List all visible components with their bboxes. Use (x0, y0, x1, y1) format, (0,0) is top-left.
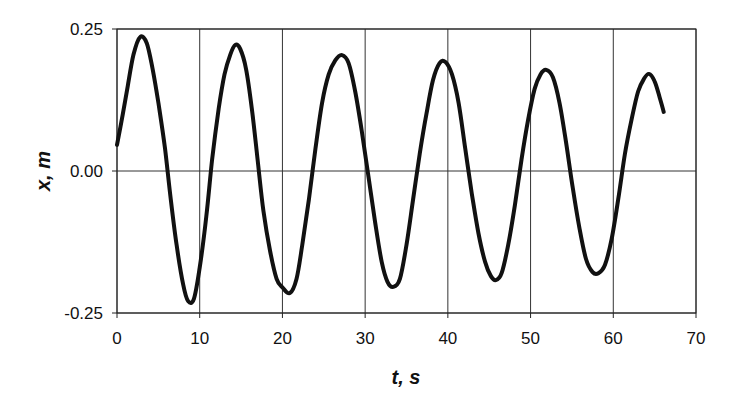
y-tick-label: 0.00 (70, 162, 103, 181)
x-tick-label: 30 (356, 329, 375, 348)
y-tick-label: -0.25 (64, 304, 103, 323)
x-axis-title: t, s (392, 366, 421, 388)
x-axis: 010203040506070 (112, 313, 705, 348)
y-axis-title: x, m (32, 151, 54, 192)
grid-lines (117, 29, 696, 313)
x-tick-label: 40 (438, 329, 457, 348)
x-tick-label: 50 (521, 329, 540, 348)
x-tick-label: 10 (190, 329, 209, 348)
y-tick-label: 0.25 (70, 20, 103, 39)
x-tick-label: 20 (273, 329, 292, 348)
x-tick-label: 70 (687, 329, 706, 348)
x-tick-label: 60 (604, 329, 623, 348)
data-series-line (117, 36, 664, 303)
x-tick-label: 0 (112, 329, 121, 348)
line-chart: -0.250.000.25 010203040506070 x, m t, s (0, 0, 732, 404)
y-axis: -0.250.000.25 (64, 20, 117, 323)
